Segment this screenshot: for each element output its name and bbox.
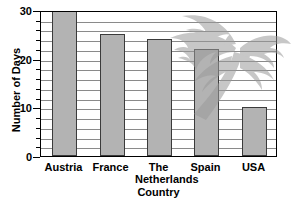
x-axis-title: Country	[40, 186, 277, 198]
bar	[100, 34, 125, 156]
bar	[147, 39, 172, 156]
y-tick-label: 0	[26, 152, 32, 163]
bar	[242, 107, 267, 156]
x-tick-label: Spain	[182, 161, 229, 173]
y-axis-title: Number of Days	[10, 30, 22, 150]
y-tick-major	[33, 157, 40, 158]
x-tick-label: Austria	[40, 161, 87, 173]
y-tick-major	[33, 11, 40, 12]
x-tick-label: USA	[230, 161, 277, 173]
bar-chart-figure: 0102030 Number of Days AustriaFranceThe …	[0, 0, 291, 209]
bar	[194, 49, 219, 156]
bar	[52, 11, 77, 156]
y-tick-major	[33, 108, 40, 109]
y-tick-label: 30	[20, 6, 32, 17]
plot-area	[40, 11, 277, 157]
x-tick-label: The Netherlands	[135, 161, 182, 185]
x-tick-label: France	[87, 161, 134, 173]
bar-series	[41, 12, 276, 156]
y-tick-major	[33, 60, 40, 61]
